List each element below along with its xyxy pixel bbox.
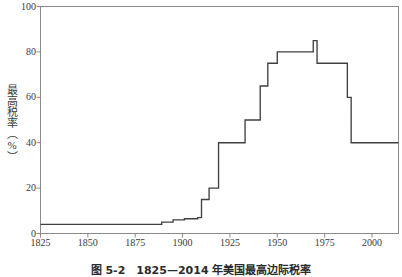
axis-ticks (37, 7, 372, 238)
figure-caption: 图 5-2 1825—2014 年美国最高边际税率 (0, 264, 402, 277)
tax-rate-step-line (41, 41, 399, 225)
axis-frame (41, 7, 399, 234)
